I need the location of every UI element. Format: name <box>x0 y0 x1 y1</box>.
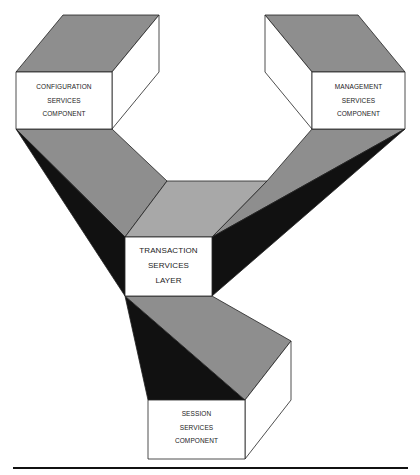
label-line: CONFIGURATION <box>16 84 112 91</box>
label-line: MANAGEMENT <box>312 84 405 91</box>
label-line: COMPONENT <box>312 111 405 118</box>
label-line: SERVICES <box>148 425 245 432</box>
transaction-label: TRANSACTION SERVICES LAYER <box>125 247 212 285</box>
label-line: LAYER <box>125 277 212 285</box>
label-line: TRANSACTION <box>125 247 212 255</box>
label-line: COMPONENT <box>148 438 245 445</box>
label-line: SESSION <box>148 411 245 418</box>
management-label: MANAGEMENT SERVICES COMPONENT <box>312 84 405 118</box>
label-line: SERVICES <box>312 98 405 105</box>
label-line: COMPONENT <box>16 111 112 118</box>
configuration-label: CONFIGURATION SERVICES COMPONENT <box>16 84 112 118</box>
label-line: SERVICES <box>125 262 212 270</box>
label-line: SERVICES <box>16 98 112 105</box>
session-label: SESSION SERVICES COMPONENT <box>148 411 245 445</box>
architecture-diagram <box>0 0 420 475</box>
